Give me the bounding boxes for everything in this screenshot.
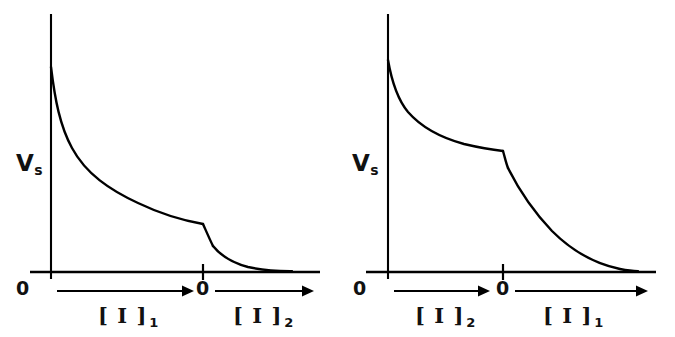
figure-root: Vs 0 0 [ I ]1 [ I ]2 <box>0 0 675 337</box>
data-curve-segment-1 <box>51 67 203 224</box>
plot-svg-left <box>0 0 337 337</box>
range-arrow-2-head <box>636 286 648 297</box>
plot-panel-left: Vs 0 0 [ I ]1 [ I ]2 <box>0 0 337 337</box>
range-label-1-subscript: 1 <box>149 315 159 330</box>
range-label-1: [ I ]1 <box>96 305 159 329</box>
range-label-2-base: [ I ] <box>233 303 282 328</box>
y-axis-label-subscript: s <box>370 162 379 178</box>
range-label-2: [ I ]2 <box>231 305 294 329</box>
y-axis-label: Vs <box>16 152 43 177</box>
y-axis-label: Vs <box>352 152 379 177</box>
range-arrow-1-head <box>478 286 490 297</box>
data-curve-kink <box>203 224 213 246</box>
y-axis-label-symbol: V <box>352 150 370 176</box>
data-curve-segment-2 <box>508 168 638 271</box>
data-curve-segment-2 <box>213 246 292 271</box>
plot-panel-right: Vs 0 0 [ I ]2 [ I ]1 <box>338 0 675 337</box>
y-axis-label-subscript: s <box>34 162 43 178</box>
origin-zero-label: 0 <box>16 279 29 298</box>
range-label-2-subscript: 1 <box>594 315 604 330</box>
origin-zero-label: 0 <box>353 279 366 298</box>
midpoint-zero-label: 0 <box>196 279 209 298</box>
range-arrow-2-head <box>302 286 314 297</box>
range-label-2-subscript: 2 <box>284 315 294 330</box>
y-axis-label-symbol: V <box>16 150 34 176</box>
midpoint-zero-label: 0 <box>496 279 509 298</box>
range-label-1-base: [ I ] <box>415 303 464 328</box>
range-label-2-base: [ I ] <box>543 303 592 328</box>
data-curve-kink <box>503 151 508 168</box>
range-label-1: [ I ]2 <box>413 305 476 329</box>
range-arrow-1-head <box>182 286 194 297</box>
data-curve-segment-1 <box>388 60 503 151</box>
range-label-1-subscript: 2 <box>466 315 476 330</box>
range-label-1-base: [ I ] <box>98 303 147 328</box>
range-label-2: [ I ]1 <box>541 305 604 329</box>
